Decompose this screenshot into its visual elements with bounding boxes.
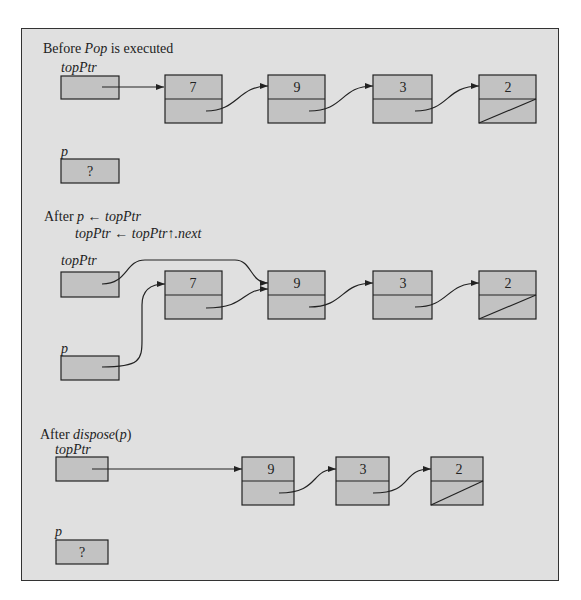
section-title: Before Pop is executed	[43, 41, 173, 56]
svg-text:9: 9	[294, 80, 301, 95]
node-7: 7	[165, 271, 222, 319]
svg-text:2: 2	[505, 276, 512, 291]
svg-text:9: 9	[268, 462, 275, 477]
node-9: 9	[268, 75, 325, 123]
p-box	[61, 356, 119, 380]
node-9: 9	[242, 457, 294, 505]
node-3: 3	[373, 75, 432, 123]
section-after-assign: After p ← topPtr topPtr ← topPtr↑.next t…	[44, 209, 536, 380]
node-9: 9	[268, 271, 325, 319]
section-subtitle: topPtr ← topPtr↑.next	[75, 226, 202, 241]
svg-text:3: 3	[400, 276, 407, 291]
topptr-label: topPtr	[55, 442, 91, 457]
p-value: ?	[87, 164, 93, 179]
p-label: p	[54, 524, 62, 539]
linked-stack-pop-diagram: Before Pop is executed topPtr 7 9 3 2	[0, 0, 581, 600]
svg-text:2: 2	[456, 462, 463, 477]
svg-text:3: 3	[400, 80, 407, 95]
node-3: 3	[373, 271, 432, 319]
section-after-dispose: After dispose(p) topPtr 9 3 2 p ?	[40, 427, 483, 564]
svg-text:7: 7	[190, 276, 197, 291]
topptr-label: topPtr	[61, 253, 97, 268]
p-label: p	[60, 144, 68, 159]
svg-text:7: 7	[190, 80, 197, 95]
svg-text:3: 3	[360, 462, 367, 477]
topptr-box	[61, 272, 119, 297]
p-value: ?	[79, 545, 85, 560]
node-2-nil: 2	[431, 457, 483, 505]
section-before-pop: Before Pop is executed topPtr 7 9 3 2	[43, 41, 536, 183]
section-title: After dispose(p)	[40, 427, 132, 443]
node-3: 3	[336, 457, 389, 505]
node-7: 7	[165, 75, 222, 123]
section-title: After p ← topPtr	[44, 209, 141, 224]
node-2-nil: 2	[479, 75, 536, 123]
svg-text:2: 2	[505, 80, 512, 95]
svg-text:9: 9	[294, 276, 301, 291]
node-2-nil: 2	[479, 271, 536, 319]
topptr-label: topPtr	[61, 60, 97, 75]
p-label: p	[60, 341, 68, 356]
